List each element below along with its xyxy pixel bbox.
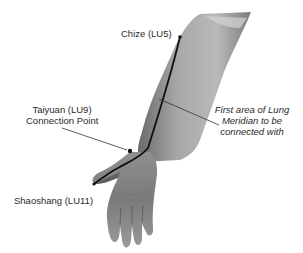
lu9-name: Taiyuan (LU9) — [26, 104, 98, 115]
lu9-leader-line — [62, 128, 127, 150]
lu9-point-marker — [128, 149, 132, 153]
hand-shape — [93, 152, 158, 248]
callout-line-3: connected with — [208, 126, 296, 137]
lu9-label: Taiyuan (LU9) Connection Point — [26, 104, 98, 126]
callout-line-2: Meridian to be — [208, 115, 296, 126]
lu11-label: Shaoshang (LU11) — [14, 195, 93, 206]
lu5-point-marker — [178, 35, 182, 39]
lu9-note: Connection Point — [26, 115, 98, 126]
lu11-point-marker — [92, 182, 95, 185]
lu5-label: Chize (LU5) — [121, 28, 172, 39]
callout-label: First area of Lung Meridian to be connec… — [208, 104, 296, 137]
callout-line-1: First area of Lung — [208, 104, 296, 115]
